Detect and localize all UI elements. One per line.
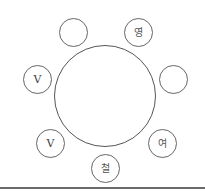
seat-left: V (23, 65, 52, 94)
seating-diagram: 영 V V 여 철 (0, 0, 205, 195)
seat-label: 철 (101, 164, 110, 174)
seat-label: V (34, 74, 42, 85)
seat-label: 여 (158, 139, 167, 149)
seat-bottom-right: 여 (148, 129, 177, 158)
divider-line (0, 187, 205, 189)
seat-bottom-left: V (36, 129, 65, 158)
seat-bottom: 철 (91, 154, 120, 183)
seat-top-left (59, 18, 88, 47)
seat-right (159, 65, 188, 94)
round-table (54, 45, 156, 147)
seat-top-right: 영 (124, 18, 153, 47)
seat-label: 영 (134, 28, 143, 38)
seat-label: V (47, 138, 55, 149)
